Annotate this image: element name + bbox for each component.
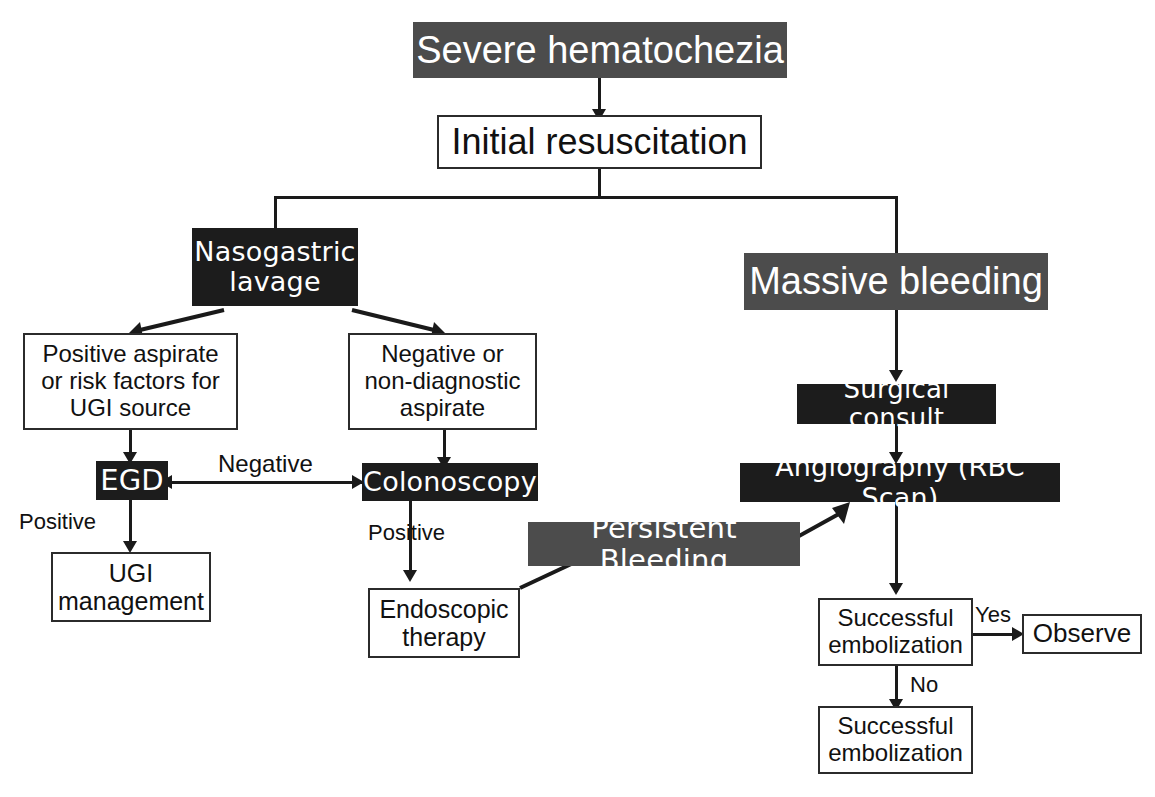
edge-split-bus (274, 196, 898, 199)
node-ugi-management[interactable]: UGI management (51, 552, 211, 622)
node-severe-hematochezia[interactable]: Severe hematochezia (413, 22, 787, 78)
node-negative-aspirate[interactable]: Negative or non-diagnostic aspirate (348, 333, 537, 430)
arrowhead-to-endoscopic-therapy (403, 570, 417, 582)
node-successful-embolization-1[interactable]: Successful embolization (818, 598, 973, 666)
edge-bus-right-drop (895, 196, 898, 254)
node-persistent-bleeding[interactable]: Persistent Bleeding (528, 522, 800, 566)
edge-label-yes: Yes (975, 602, 1011, 628)
edge-label-no: No (910, 672, 938, 698)
edge-bus-left-drop (274, 196, 277, 230)
edge-label-positive-colonoscopy: Positive (368, 520, 445, 546)
edge-resuscitation-stem (598, 169, 601, 199)
node-angiography[interactable]: Angiography (RBC Scan) (740, 463, 1060, 502)
node-positive-aspirate[interactable]: Positive aspirate or risk factors for UG… (23, 333, 238, 430)
node-initial-resuscitation[interactable]: Initial resuscitation (437, 115, 762, 169)
node-colonoscopy[interactable]: Colonoscopy (362, 463, 538, 501)
node-surgical-consult[interactable]: Surgical consult (797, 384, 996, 424)
edge-label-positive-egd: Positive (19, 509, 96, 535)
edge-angiography-to-embolization-1 (895, 502, 898, 592)
node-massive-bleeding[interactable]: Massive bleeding (744, 253, 1048, 310)
node-egd[interactable]: EGD (96, 461, 168, 500)
node-endoscopic-therapy[interactable]: Endoscopic therapy (368, 588, 520, 658)
edge-massive-bleeding-to-surgical-consult (895, 310, 898, 372)
flowchart-canvas: Negative Positive Positive Yes No Severe… (0, 0, 1155, 797)
node-observe[interactable]: Observe (1022, 614, 1142, 654)
node-nasogastric-lavage[interactable]: Nasogastric lavage (192, 228, 358, 306)
node-successful-embolization-2[interactable]: Successful embolization (818, 706, 973, 774)
edge-label-negative: Negative (218, 450, 313, 478)
edge-colonoscopy-to-egd (168, 481, 362, 484)
edge-embolization-to-observe (973, 633, 1017, 636)
arrowhead-to-embolization-1 (889, 583, 903, 595)
